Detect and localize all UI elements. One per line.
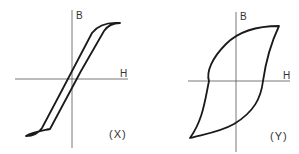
- diagram-x: B H (X): [15, 10, 128, 148]
- hysteresis-loop-y: [190, 26, 279, 138]
- b-axis-label: B: [240, 11, 247, 22]
- caption-x: (X): [109, 128, 127, 140]
- b-axis-label: B: [76, 10, 83, 21]
- diagram-y: B H (Y): [188, 11, 290, 152]
- h-axis-label: H: [120, 68, 127, 79]
- caption-y: (Y): [270, 130, 288, 142]
- h-axis-label: H: [283, 70, 290, 81]
- hysteresis-figure: B H (X) B H (Y): [0, 0, 299, 154]
- hysteresis-loop-x: [26, 23, 120, 136]
